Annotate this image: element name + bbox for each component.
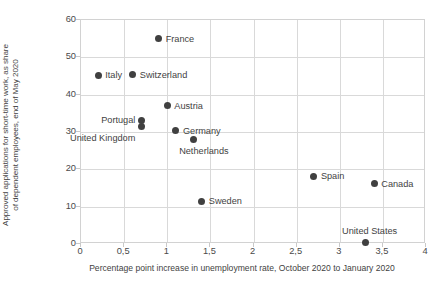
x-axis-title: Percentage point increase in unemploymen… (52, 262, 432, 274)
data-point-marker[interactable] (310, 173, 317, 180)
data-point-marker[interactable] (164, 102, 171, 109)
gridline-horizontal (81, 57, 424, 58)
x-axis-tick-label: 1 (164, 246, 169, 256)
x-axis-tick-label: 3,5 (375, 246, 388, 256)
data-point-marker[interactable] (95, 72, 102, 79)
x-axis-tick-labels: 00,511,522,533,54 (80, 246, 425, 260)
data-point-marker[interactable] (155, 35, 162, 42)
y-axis-tick-label: 40 (50, 89, 76, 99)
data-point-label: Sweden (209, 196, 242, 206)
gridline-vertical (340, 20, 341, 242)
data-point-marker[interactable] (198, 198, 205, 205)
data-point-label: United States (342, 226, 397, 236)
x-axis-tick-label: 0 (77, 246, 82, 256)
x-axis-tick-label: 1,5 (203, 246, 216, 256)
gridline-vertical (124, 20, 125, 242)
gridline-vertical (254, 20, 255, 242)
x-axis-tick-label: 3 (336, 246, 341, 256)
y-axis-title: Approved applications for short-time wor… (1, 9, 35, 261)
plot-area: FranceItalySwitzerlandAustriaPortugalUni… (80, 19, 425, 243)
x-axis-tick-label: 4 (422, 246, 427, 256)
scatter-chart: Approved applications for short-time wor… (0, 0, 437, 299)
gridline-horizontal (81, 95, 424, 96)
gridline-vertical (167, 20, 168, 242)
y-axis-tick-label: 0 (50, 238, 76, 248)
data-point-marker[interactable] (190, 136, 197, 143)
data-point-label: Switzerland (140, 70, 188, 80)
y-axis-tick-label: 60 (50, 14, 76, 24)
y-axis-tick-label: 20 (50, 163, 76, 173)
data-point-marker[interactable] (172, 127, 179, 134)
data-point-label: Canada (381, 179, 413, 189)
data-point-marker[interactable] (138, 123, 145, 130)
data-point-label: Portugal (101, 115, 135, 125)
gridline-vertical (383, 20, 384, 242)
data-point-label: Spain (321, 171, 345, 181)
data-point-marker[interactable] (129, 71, 136, 78)
data-point-label: France (166, 34, 195, 44)
gridline-vertical (297, 20, 298, 242)
data-point-marker[interactable] (371, 180, 378, 187)
data-point-label: Germany (183, 126, 221, 136)
gridline-horizontal (81, 207, 424, 208)
data-point-label: Netherlands (179, 146, 229, 156)
data-point-label: Italy (105, 70, 122, 80)
x-axis-tick-label: 0,5 (117, 246, 130, 256)
data-point-label: Austria (174, 101, 203, 111)
data-point-label: United Kingdom (70, 133, 135, 143)
y-axis-title-line-2: of dependent employees, end of May 2020 (11, 9, 21, 261)
x-axis-tick-label: 2,5 (289, 246, 302, 256)
y-axis-tick-labels: 0102030405060 (46, 19, 76, 243)
y-axis-tick-label: 50 (50, 51, 76, 61)
y-axis-tick-label: 10 (50, 201, 76, 211)
gridline-horizontal (81, 169, 424, 170)
y-axis-title-line-1: Approved applications for short-time wor… (1, 9, 11, 261)
x-axis-tick-label: 2 (250, 246, 255, 256)
